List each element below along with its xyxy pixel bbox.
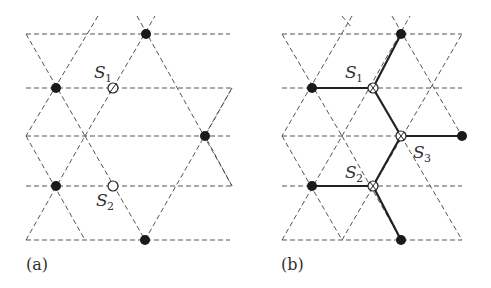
filled-site-dot [51, 181, 61, 191]
filled-site-dot [51, 83, 61, 93]
site-label-s1: S [94, 62, 106, 82]
site-label-s2: S [345, 162, 357, 182]
bond-line [373, 136, 401, 186]
panel-label-a: (a) [26, 255, 48, 274]
lattice-line-diagonal [401, 136, 462, 240]
lattice-lines [282, 16, 462, 240]
lattice-line-diagonal [137, 16, 232, 186]
filled-site-dot [396, 29, 406, 39]
lattice-figure: S1S2(a) S1S3S2(b) [0, 0, 491, 288]
site-label-s3: S [413, 142, 425, 162]
open-sites: S1S3S2 [345, 62, 431, 191]
filled-sites [51, 29, 210, 245]
site-label-subscript: 1 [105, 72, 112, 85]
lattice-lines [26, 16, 232, 240]
open-sites: S1S2 [94, 62, 118, 213]
filled-site-dot [457, 131, 467, 141]
site-label-subscript: 3 [424, 152, 431, 165]
bond-line [373, 34, 401, 88]
site-label-subscript: 2 [356, 172, 363, 185]
site-label-s2: S [96, 190, 108, 210]
panel-a: S1S2(a) [26, 16, 232, 274]
open-site-circle [108, 181, 118, 191]
site-label-s1: S [345, 62, 357, 82]
site-label-subscript: 1 [356, 72, 363, 85]
filled-site-dot [141, 29, 151, 39]
filled-site-dot [307, 83, 317, 93]
panel-label-b: (b) [281, 255, 304, 274]
filled-site-dot [307, 181, 317, 191]
filled-site-dot [396, 235, 406, 245]
site-label-subscript: 2 [107, 200, 114, 213]
bond-line [373, 88, 401, 136]
bond-line [373, 186, 401, 240]
panel-b: S1S3S2(b) [281, 16, 467, 274]
lattice-line-diagonal [205, 136, 232, 186]
filled-site-dot [200, 131, 210, 141]
bonds [312, 34, 462, 240]
filled-site-dot [140, 235, 150, 245]
